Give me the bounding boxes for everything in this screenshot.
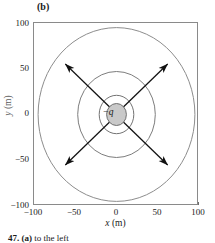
y-tick-label-50: 50 [1, 64, 29, 73]
x-axis-unit: (m) [112, 218, 126, 228]
y-axis-label: y (m) [3, 76, 14, 136]
field-arrow-lower-left [65, 122, 110, 165]
point-charge [107, 104, 127, 126]
plot-frame [33, 22, 198, 205]
field-arrow-upper-left [65, 64, 110, 107]
plot-canvas [34, 23, 199, 206]
figure-caption: 47. (a) to the left [8, 233, 69, 243]
caption-text: to the left [34, 233, 69, 243]
x-axis-label: x (m) [33, 218, 198, 229]
field-arrow-upper-right [123, 64, 168, 107]
x-tick-label-50: 50 [140, 208, 174, 217]
x-tick-label-neg50: −50 [57, 208, 91, 217]
field-arrow-lower-right [123, 122, 168, 165]
caption-part: (a) [22, 233, 33, 243]
y-tick-label-neg50: −50 [1, 155, 29, 164]
y-axis-unit: (m) [3, 95, 13, 109]
x-tick-label-0: 0 [99, 208, 133, 217]
x-tick-label-neg100: −100 [16, 208, 50, 217]
x-axis-symbol: x [105, 218, 109, 228]
panel-label: (b) [37, 1, 49, 13]
y-tick-label-100: 100 [1, 19, 29, 28]
x-tick-label-100: 100 [181, 208, 215, 217]
y-axis-symbol: y [3, 111, 13, 115]
caption-number: 47. [8, 233, 19, 243]
